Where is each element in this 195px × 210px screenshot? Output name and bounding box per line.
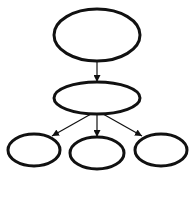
node-ellipse-center <box>70 137 124 169</box>
edge-arrow-middle-to-right <box>103 114 142 136</box>
edge-arrow-middle-to-left <box>52 114 91 136</box>
node-ellipse-right <box>135 134 187 166</box>
tree-diagram <box>0 0 195 210</box>
node-ellipse-root <box>54 9 140 61</box>
node-ellipse-middle <box>54 82 140 114</box>
nodes-group <box>8 9 187 169</box>
node-ellipse-left <box>8 134 60 166</box>
